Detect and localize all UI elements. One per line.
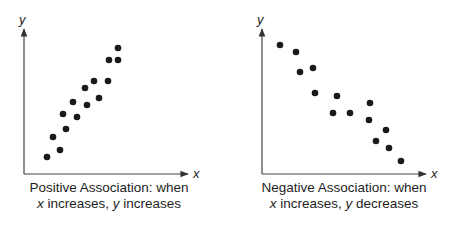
- caption-text: increases,: [276, 196, 345, 211]
- caption-text: decreases: [352, 196, 418, 211]
- data-point: [330, 110, 337, 117]
- data-point: [74, 114, 81, 121]
- data-point: [63, 126, 70, 133]
- data-point: [347, 110, 354, 117]
- negative-chart-axes: y x: [256, 12, 438, 181]
- data-point: [334, 93, 341, 100]
- positive-y-label: y: [18, 12, 27, 27]
- negative-x-label: x: [430, 166, 438, 181]
- positive-caption-line2: x increases, y increases: [9, 196, 209, 212]
- negative-data-points: [277, 42, 405, 165]
- positive-caption: Positive Association: when x increases, …: [9, 180, 209, 212]
- data-point: [386, 145, 393, 152]
- data-point: [106, 57, 113, 64]
- caption-text: increases: [120, 196, 182, 211]
- negative-y-label: y: [256, 12, 265, 27]
- negative-caption-line2: x increases, y decreases: [244, 196, 444, 212]
- data-point: [91, 78, 98, 85]
- data-point: [312, 90, 319, 97]
- data-point: [293, 49, 300, 56]
- var-x: x: [37, 196, 44, 211]
- data-point: [398, 158, 405, 165]
- data-point: [50, 134, 57, 141]
- data-point: [115, 57, 122, 64]
- data-point: [105, 78, 112, 85]
- data-point: [366, 117, 373, 124]
- data-point: [96, 95, 103, 102]
- data-point: [70, 99, 77, 106]
- negative-caption: Negative Association: when x increases, …: [244, 180, 444, 212]
- negative-caption-line1: Negative Association: when: [244, 180, 444, 196]
- var-y: y: [113, 196, 120, 211]
- positive-caption-line1: Positive Association: when: [9, 180, 209, 196]
- data-point: [82, 85, 89, 92]
- data-point: [367, 100, 374, 107]
- data-point: [297, 69, 304, 76]
- data-point: [383, 127, 390, 134]
- caption-text: increases,: [44, 196, 113, 211]
- data-point: [44, 154, 51, 161]
- positive-x-label: x: [192, 166, 200, 181]
- data-point: [57, 147, 64, 154]
- positive-data-points: [44, 45, 122, 161]
- data-point: [60, 111, 67, 118]
- data-point: [277, 42, 284, 49]
- data-point: [310, 65, 317, 72]
- data-point: [84, 102, 91, 109]
- data-point: [115, 45, 122, 52]
- data-point: [373, 138, 380, 145]
